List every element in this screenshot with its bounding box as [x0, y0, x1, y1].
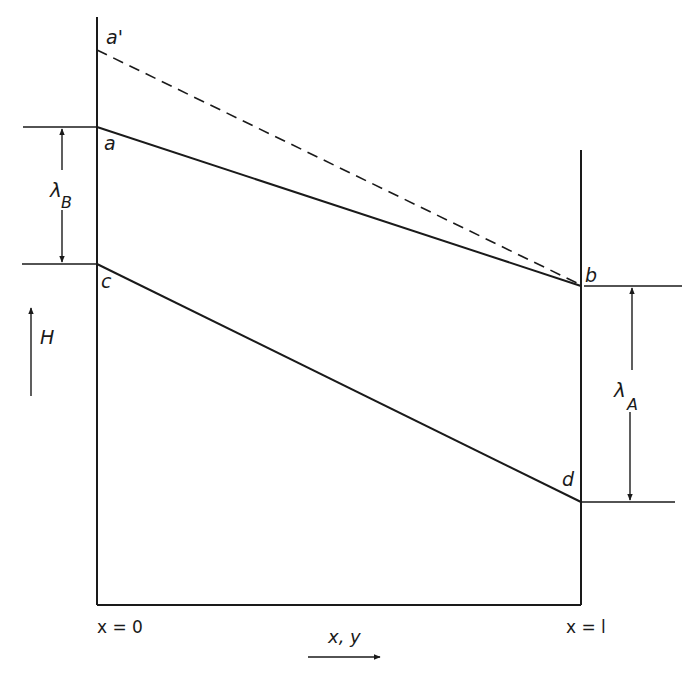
- solid-line-a-b: [97, 127, 581, 286]
- label-lambda-b: λ: [49, 178, 62, 202]
- solid-line-c-d: [97, 264, 581, 502]
- label-c: c: [101, 270, 112, 292]
- label-x-equals-l: x = l: [566, 617, 606, 637]
- label-lambda-a: λ: [613, 378, 626, 402]
- label-x-equals-0: x = 0: [97, 617, 143, 637]
- dashed-line-a-prime-b: [97, 50, 581, 285]
- label-a-prime: a': [106, 26, 123, 48]
- label-lambda-b-subscript: B: [61, 193, 72, 212]
- label-d: d: [562, 468, 575, 490]
- label-b: b: [585, 264, 597, 286]
- label-xy-axis: x, y: [327, 626, 361, 647]
- label-lambda-a-subscript: A: [626, 395, 638, 414]
- diagram-canvas: a' a b c d λ B λ A H x, y x = 0 x = l: [0, 0, 697, 676]
- label-a: a: [104, 132, 116, 154]
- label-h-axis: H: [40, 326, 54, 348]
